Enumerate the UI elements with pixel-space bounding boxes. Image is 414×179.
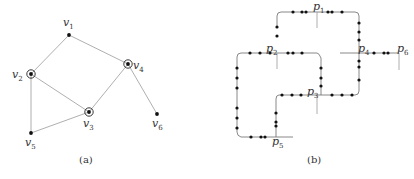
edge-v2-v3	[31, 74, 89, 112]
terminal-label-p1: p1	[313, 0, 325, 15]
path-top-loop	[276, 12, 359, 137]
grid-drawing-b: p1p2p3p4p5p6	[235, 0, 409, 150]
node-v4	[126, 62, 130, 66]
terminal-label-p2: p2	[266, 42, 278, 57]
path-left-column	[237, 57, 293, 137]
node-label-v2: v2	[12, 68, 23, 83]
node-label-v4: v4	[133, 59, 144, 74]
caption-b: (b)	[307, 154, 321, 165]
path-left-loop	[317, 53, 321, 95]
node-v2	[29, 72, 33, 76]
caption-a: (a)	[79, 154, 93, 165]
node-v5	[29, 131, 33, 135]
terminal-label-p4: p4	[358, 42, 370, 57]
node-v3	[87, 110, 91, 114]
edge-v1-v4	[69, 35, 128, 64]
terminal-label-p3: p3	[307, 85, 319, 100]
node-v6	[155, 112, 159, 116]
node-label-v3: v3	[83, 117, 94, 132]
edge-v1-v2	[31, 35, 69, 74]
figure-canvas: v1v2v3v4v5v6 (a)	[0, 0, 414, 179]
node-label-v5: v5	[25, 136, 36, 151]
node-v1	[67, 33, 71, 37]
edge-v3-v5	[31, 112, 89, 133]
node-label-v6: v6	[152, 117, 163, 132]
path-dots	[235, 10, 389, 138]
terminal-label-p6: p6	[397, 42, 409, 57]
graph-a: v1v2v3v4v5v6	[12, 16, 163, 151]
node-label-v1: v1	[63, 16, 74, 31]
edge-v3-v4	[89, 64, 128, 112]
